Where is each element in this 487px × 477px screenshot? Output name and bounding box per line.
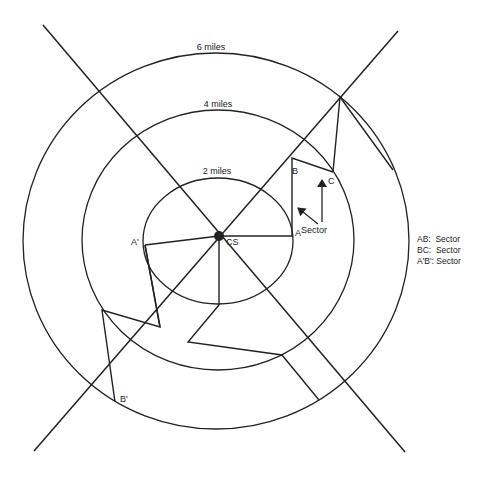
legend: AB: Sector BC: Sector A'B': Sector <box>417 234 461 267</box>
sector-bc <box>333 97 393 172</box>
sector-a-prime-b-prime <box>102 245 160 402</box>
central-station-dot <box>214 231 224 241</box>
point-label-a-prime: A' <box>131 237 139 247</box>
point-label-a: A <box>295 228 301 238</box>
sector-arrow-diagonal-icon <box>298 208 318 224</box>
axis-line-1 <box>43 25 405 452</box>
legend-item-a-prime-b-prime: A'B': Sector <box>417 256 461 267</box>
central-station-label: CS <box>226 237 239 247</box>
radial-sector-diagram: 6 miles4 miles2 miles Sector ABCA'B' CS <box>0 0 487 477</box>
ring-label: 2 miles <box>203 166 232 176</box>
ray-cs-a-prime <box>145 236 219 245</box>
point-label-b: B <box>292 166 298 176</box>
point-label-c: C <box>328 176 335 186</box>
sector-label: Sector <box>301 225 327 235</box>
lower-path <box>188 305 319 400</box>
sector-annotations: Sector <box>298 180 327 235</box>
legend-item-ab: AB: Sector <box>417 234 461 245</box>
ring-label: 6 miles <box>197 42 226 52</box>
point-label-b-prime: B' <box>120 394 128 404</box>
legend-item-bc: BC: Sector <box>417 245 461 256</box>
central-station: CS <box>214 231 239 247</box>
sector-paths <box>102 97 393 402</box>
ring-label: 4 miles <box>204 99 233 109</box>
axis-line-2 <box>34 31 398 451</box>
ring-2-miles <box>143 178 293 304</box>
